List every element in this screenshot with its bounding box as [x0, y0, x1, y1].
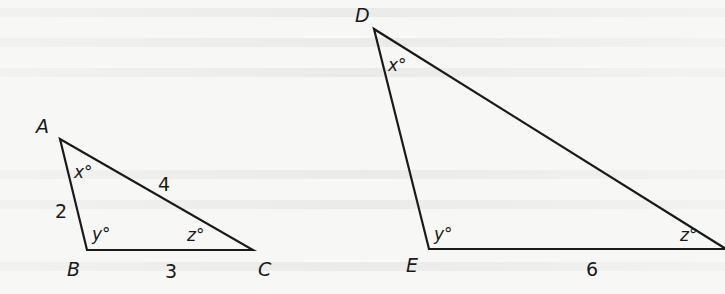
vertex-label-e: E — [406, 254, 418, 276]
triangle-abc: A B C x° y° z° 2 4 3 — [34, 115, 272, 282]
triangle-abc-outline — [60, 139, 253, 250]
side-length-ab: 2 — [55, 200, 67, 222]
angle-label-b: y° — [91, 224, 111, 244]
vertex-label-a: A — [34, 115, 49, 137]
triangle-def: D E x° y° z° 6 — [355, 4, 725, 280]
vertex-label-d: D — [355, 4, 370, 26]
side-length-bc: 3 — [165, 260, 177, 282]
angle-label-c: z° — [186, 225, 204, 245]
triangle-def-outline — [374, 29, 725, 249]
side-length-ac: 4 — [158, 173, 170, 195]
angle-label-f: z° — [679, 225, 697, 245]
similar-triangles-figure: A B C x° y° z° 2 4 3 D E x° y° z° 6 — [0, 0, 725, 294]
angle-label-a: x° — [73, 162, 93, 182]
angle-label-e: y° — [433, 224, 453, 244]
angle-label-d: x° — [387, 55, 407, 75]
vertex-label-c: C — [258, 258, 272, 280]
vertex-label-b: B — [67, 258, 80, 280]
side-length-ef: 6 — [586, 258, 598, 280]
